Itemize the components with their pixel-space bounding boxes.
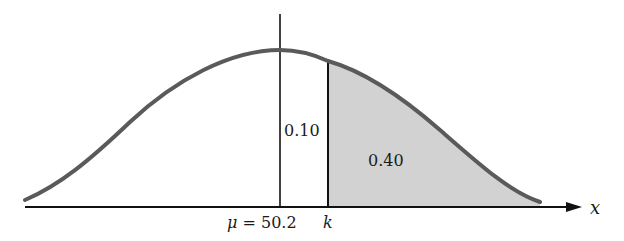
k-label: k xyxy=(323,213,333,232)
x-axis-label: x xyxy=(590,197,600,218)
x-axis-arrow-icon xyxy=(566,202,582,212)
area-tail-label: 0.40 xyxy=(368,151,404,170)
area-between-label: 0.10 xyxy=(284,121,320,140)
mean-label: μ = 50.2 xyxy=(227,213,297,232)
normal-curve-figure: 0.10 0.40 μ = 50.2 k x xyxy=(0,0,624,241)
